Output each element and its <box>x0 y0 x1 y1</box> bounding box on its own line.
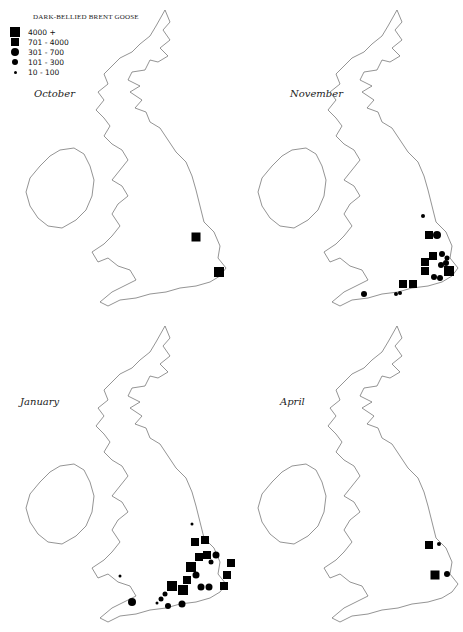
square-count-marker <box>214 267 224 277</box>
circle-count-marker <box>437 275 443 281</box>
circle-count-marker <box>439 251 445 257</box>
square-count-marker <box>421 258 429 266</box>
circle-count-marker <box>128 598 136 606</box>
circle-count-marker <box>156 602 159 605</box>
square-count-marker <box>192 233 201 242</box>
circle-count-marker <box>119 575 122 578</box>
square-count-marker <box>178 585 188 595</box>
coastline <box>26 148 94 228</box>
square-count-marker <box>425 541 433 549</box>
square-count-marker <box>399 280 407 288</box>
circle-count-marker <box>179 601 186 608</box>
square-count-marker <box>201 536 209 544</box>
circle-count-marker <box>398 291 402 295</box>
square-count-marker <box>431 571 440 580</box>
circle-count-marker <box>193 572 200 579</box>
circle-count-marker <box>361 291 367 297</box>
circle-count-marker <box>206 584 213 591</box>
square-count-marker <box>183 576 191 584</box>
square-count-marker <box>444 266 454 276</box>
maps-layer <box>0 0 463 632</box>
circle-count-marker <box>438 262 444 268</box>
circle-count-marker <box>191 523 194 526</box>
coastline <box>26 464 94 544</box>
square-count-marker <box>191 538 199 546</box>
coastline <box>324 10 458 306</box>
square-count-marker <box>223 571 231 579</box>
circle-count-marker <box>209 560 214 565</box>
coastline <box>258 148 326 228</box>
square-count-marker <box>227 559 235 567</box>
square-count-marker <box>186 562 196 572</box>
square-count-marker <box>425 231 433 239</box>
square-count-marker <box>203 551 211 559</box>
coastline <box>92 10 226 306</box>
circle-count-marker <box>444 571 450 577</box>
square-count-marker <box>195 553 203 561</box>
circle-count-marker <box>159 597 164 602</box>
square-count-marker <box>167 581 177 591</box>
circle-count-marker <box>394 292 398 296</box>
circle-count-marker <box>163 592 168 597</box>
coastline <box>92 326 226 622</box>
square-count-marker <box>421 267 429 275</box>
circle-count-marker <box>421 214 425 218</box>
coastline <box>258 464 326 544</box>
circle-count-marker <box>213 552 220 559</box>
square-count-marker <box>409 280 417 288</box>
circle-count-marker <box>437 542 441 546</box>
circle-count-marker <box>165 603 171 609</box>
square-count-marker <box>220 582 228 590</box>
circle-count-marker <box>433 231 441 239</box>
circle-count-marker <box>198 584 205 591</box>
square-count-marker <box>429 252 437 260</box>
circle-count-marker <box>445 256 450 261</box>
circle-count-marker <box>431 274 437 280</box>
